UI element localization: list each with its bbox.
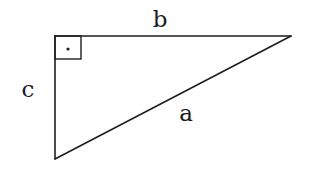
side-a-hypotenuse-line xyxy=(55,36,291,159)
label-b: b xyxy=(153,6,168,32)
label-a: a xyxy=(179,100,193,126)
right-triangle-diagram: b c a xyxy=(0,0,314,189)
label-c: c xyxy=(22,76,35,102)
right-angle-dot xyxy=(66,47,69,50)
